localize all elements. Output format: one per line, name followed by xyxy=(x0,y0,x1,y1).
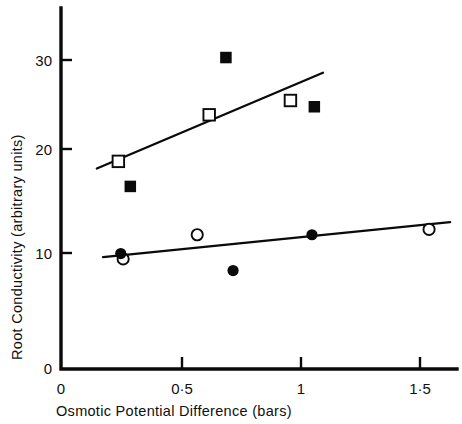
data-point-open-circle xyxy=(192,229,203,240)
data-layer xyxy=(97,52,450,276)
x-tick-label-0-5: 0·5 xyxy=(171,380,193,397)
series-open-square xyxy=(113,95,297,167)
series-filled-square xyxy=(125,52,321,192)
x-tick-label-0: 0 xyxy=(57,380,65,397)
y-tick-labels: 30 20 10 0 xyxy=(35,52,52,377)
x-tick-labels: 0 0·5 1 1·5 xyxy=(57,380,431,397)
axis-lines xyxy=(61,8,457,369)
y-tick-label-0: 0 xyxy=(44,360,52,377)
data-point-filled-circle xyxy=(227,265,238,276)
data-point-filled-square xyxy=(220,52,232,64)
x-axis-title: Osmotic Potential Difference (bars) xyxy=(56,403,292,419)
lower-regression-line xyxy=(103,222,450,257)
series-open-circle xyxy=(118,224,435,265)
data-point-open-square xyxy=(113,156,125,168)
data-point-open-circle xyxy=(423,224,434,235)
y-tick-label-30: 30 xyxy=(35,52,52,69)
y-tick-label-20: 20 xyxy=(35,141,52,158)
data-point-filled-circle xyxy=(115,248,126,259)
data-point-filled-circle xyxy=(306,229,317,240)
data-point-open-square xyxy=(203,109,215,121)
axis-group xyxy=(61,8,457,369)
x-tick-label-1-5: 1·5 xyxy=(409,380,431,397)
y-axis-title: Root Conductivity (arbitrary units) xyxy=(9,134,25,360)
data-point-filled-square xyxy=(125,181,137,193)
y-tick-label-10: 10 xyxy=(35,245,52,262)
root-conductivity-scatter-chart: 30 20 10 0 0 0·5 1 1·5 Osmotic Potential… xyxy=(0,0,462,424)
data-point-filled-square xyxy=(309,101,321,113)
data-point-open-square xyxy=(285,95,297,107)
x-tick-label-1: 1 xyxy=(297,380,305,397)
